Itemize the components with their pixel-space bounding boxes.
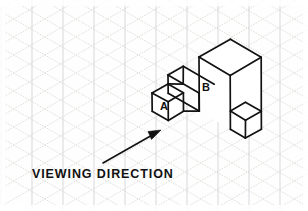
- isometric-drawing-figure: A B VIEWING DIRECTION: [0, 0, 308, 211]
- face-label-b: B: [202, 81, 210, 93]
- face-label-a: A: [160, 100, 168, 112]
- isometric-solid: A B: [152, 39, 261, 138]
- viewing-direction-arrow: [103, 130, 161, 163]
- viewing-direction-caption: VIEWING DIRECTION: [32, 166, 174, 181]
